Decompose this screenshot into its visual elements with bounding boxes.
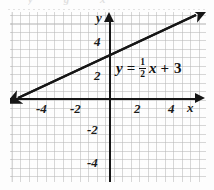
fraction-numerator: 1 — [139, 58, 146, 68]
equation-variable: x — [149, 60, 157, 77]
y-axis — [109, 16, 111, 182]
y-tick-label-neg2: -2 — [87, 122, 98, 138]
x-axis — [10, 98, 198, 100]
x-tick-label-neg4: -4 — [36, 101, 47, 117]
equation-equals: = — [127, 60, 136, 77]
y-tick-label-4: 4 — [94, 34, 101, 50]
y-tick-label-neg4: -4 — [87, 155, 98, 171]
x-tick-label-neg2: -2 — [70, 101, 81, 117]
equation-lhs: y — [116, 60, 123, 77]
fraction-denominator: 2 — [139, 70, 146, 80]
equation-plus: + — [160, 60, 169, 77]
y-axis-arrow-icon — [104, 12, 114, 22]
x-tick-label-2: 2 — [134, 101, 141, 117]
y-tick-label-2: 2 — [94, 68, 101, 84]
graph-figure: y g x -4 -2 2 4 4 2 -2 — [0, 0, 214, 190]
grid-dots-horizontal — [10, 12, 206, 182]
equation-fraction: 1 2 — [139, 58, 146, 80]
x-axis-label: x — [187, 100, 194, 116]
scan-artifact-text: y g x — [28, 0, 208, 5]
x-tick-label-4: 4 — [168, 101, 175, 117]
plot-area: -4 -2 2 4 4 2 -2 -4 y x — [10, 12, 206, 182]
equation-constant: 3 — [174, 60, 182, 77]
scan-artifact-rule — [8, 9, 208, 10]
equation-label: y = 1 2 x + 3 — [116, 58, 183, 80]
y-axis-label: y — [96, 10, 102, 26]
x-axis-arrow-icon — [195, 93, 205, 103]
